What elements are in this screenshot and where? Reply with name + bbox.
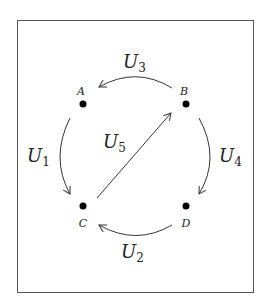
edge-label-u4: U4	[219, 145, 242, 169]
node-label-a: A	[76, 85, 85, 98]
graph-diagram: A B C D U3 U1 U5 U4 U2	[0, 0, 262, 305]
node-d	[183, 203, 190, 210]
edge-u5-c-to-b	[97, 113, 171, 198]
node-label-c: C	[79, 217, 88, 230]
edge-u4-b-to-d	[199, 118, 210, 194]
node-b	[183, 101, 190, 108]
edge-u1-a-to-c	[60, 118, 70, 194]
node-a	[80, 101, 87, 108]
node-label-d: D	[181, 217, 191, 230]
edge-label-u3: U3	[123, 51, 146, 75]
edge-u2-d-to-c	[99, 225, 172, 236]
node-c	[80, 203, 87, 210]
edge-label-u2: U2	[121, 241, 144, 265]
node-label-b: B	[179, 85, 188, 98]
edge-u3-b-to-a	[99, 77, 172, 88]
edge-label-u5: U5	[103, 131, 126, 155]
edge-label-u1: U1	[27, 145, 50, 169]
